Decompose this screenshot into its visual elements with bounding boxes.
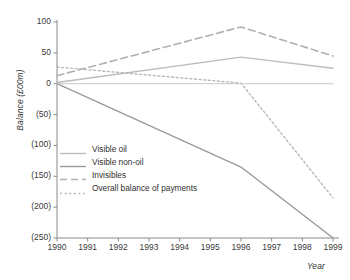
series-line [57,27,333,76]
legend-item[interactable]: Visible oil [60,143,197,154]
legend-item[interactable]: Overall balance of payments [60,183,197,194]
legend-swatch-icon [60,184,86,193]
plot-area [0,0,350,280]
legend-label: Overall balance of payments [92,183,197,193]
legend-label: Invisibles [92,170,126,180]
legend-item[interactable]: Visible non-oil [60,156,197,167]
legend-label: Visible non-oil [92,157,144,167]
chart-container: Balance (£00m) Year 100500(50)(100)(150)… [0,0,350,280]
chart-legend: Visible oilVisible non-oilInvisiblesOver… [60,143,197,194]
legend-item[interactable]: Invisibles [60,169,197,180]
legend-swatch-icon [60,170,86,179]
legend-swatch-icon [60,144,86,153]
legend-swatch-icon [60,157,86,166]
legend-label: Visible oil [92,144,127,154]
